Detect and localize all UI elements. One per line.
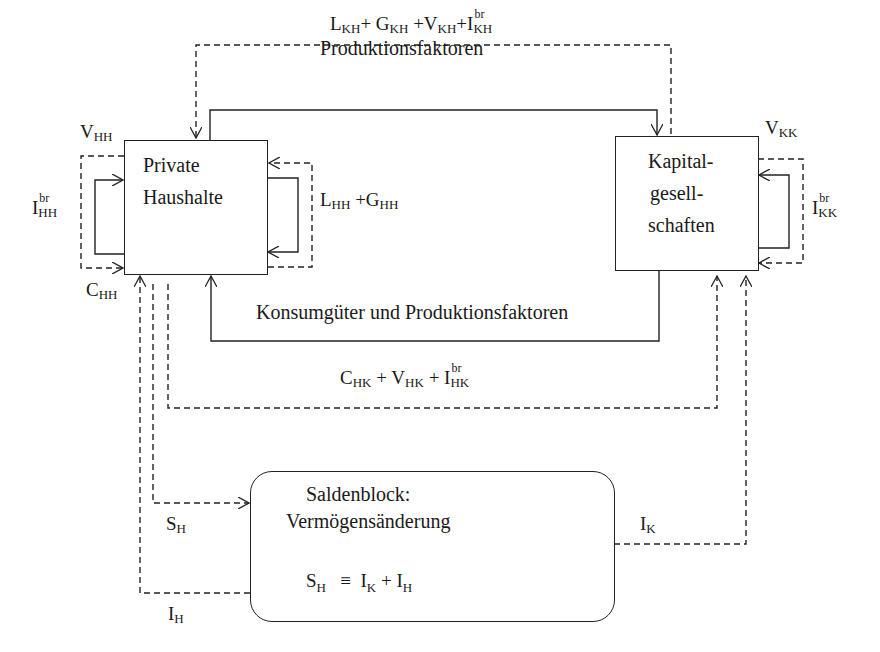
corporations-label-3: schaften [648,213,715,237]
households-node: Private Haushalte [124,140,268,275]
middle-flow-formula: CHK + VHK + IbrHK [340,368,472,390]
solid-loop-hh-right [268,178,298,252]
middle-flow-caption: Konsumgüter und Produktionsfaktoren [256,302,568,322]
balance-title: Saldenblock: [306,482,410,506]
top-flow-formula: LKH+ GKH +VKH+IbrKH [330,14,495,36]
balance-node: Saldenblock: Vermögensänderung SH ≡ IK +… [250,471,615,622]
label-c-hh: CHH [86,280,117,301]
label-i-k: IK [640,514,656,535]
dashed-loop-hh-left [81,156,124,268]
solid-loop-kk-right [758,175,789,248]
label-v-kk: VKK [765,118,798,139]
dashed-flow-ih [140,276,250,593]
label-v-hh: VHH [80,122,113,143]
solid-flow-hh-to-kk [210,110,657,140]
households-label-2: Haushalte [143,185,223,209]
solid-loop-hh-left [95,180,124,254]
top-flow-caption: Produktionsfaktoren [320,38,483,58]
dashed-flow-ik [614,276,746,544]
corporations-label-2: gesell- [650,181,715,205]
label-i-br-kk: IbrKK [812,198,840,220]
corporations-node: Kapital- gesell- schaften [615,136,759,271]
balance-identity: SH ≡ IK + IH [306,569,412,600]
label-l-g-hh: LHH +GHH [320,190,398,211]
balance-subtitle: Vermögensänderung [286,509,450,533]
label-s-h: SH [166,514,186,535]
households-label-1: Private [143,153,223,177]
label-i-br-hh: IbrHH [32,198,60,220]
corporations-label-1: Kapital- [648,149,715,173]
label-i-h: IH [168,604,184,625]
